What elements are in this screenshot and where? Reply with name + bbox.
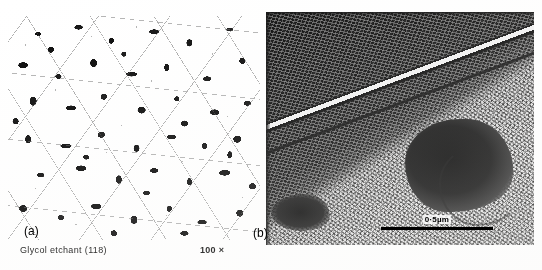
micrograph-figure: 0·5µm (a) (b) Glycol etchant (118) 100 ×: [0, 0, 542, 270]
caption-row: Glycol etchant (118) 100 ×: [0, 243, 271, 267]
caption-magnification: 100 ×: [200, 245, 224, 255]
caption-etchant: Glycol etchant (118): [20, 245, 107, 255]
film-grain-noise: [8, 16, 260, 240]
scale-bar: 0·5µm: [381, 208, 493, 230]
scale-bar-line: [381, 227, 493, 230]
panel-label-a: (a): [24, 225, 39, 237]
scale-bar-label: 0·5µm: [423, 215, 451, 224]
panel-label-b: (b): [253, 227, 268, 239]
panel-a-optical-micrograph: [8, 16, 260, 240]
panel-b-electron-micrograph: 0·5µm: [266, 12, 534, 245]
print-edge-top: [266, 12, 534, 15]
print-edge-left: [266, 12, 270, 245]
dark-inclusion-lower-left: [271, 194, 330, 231]
